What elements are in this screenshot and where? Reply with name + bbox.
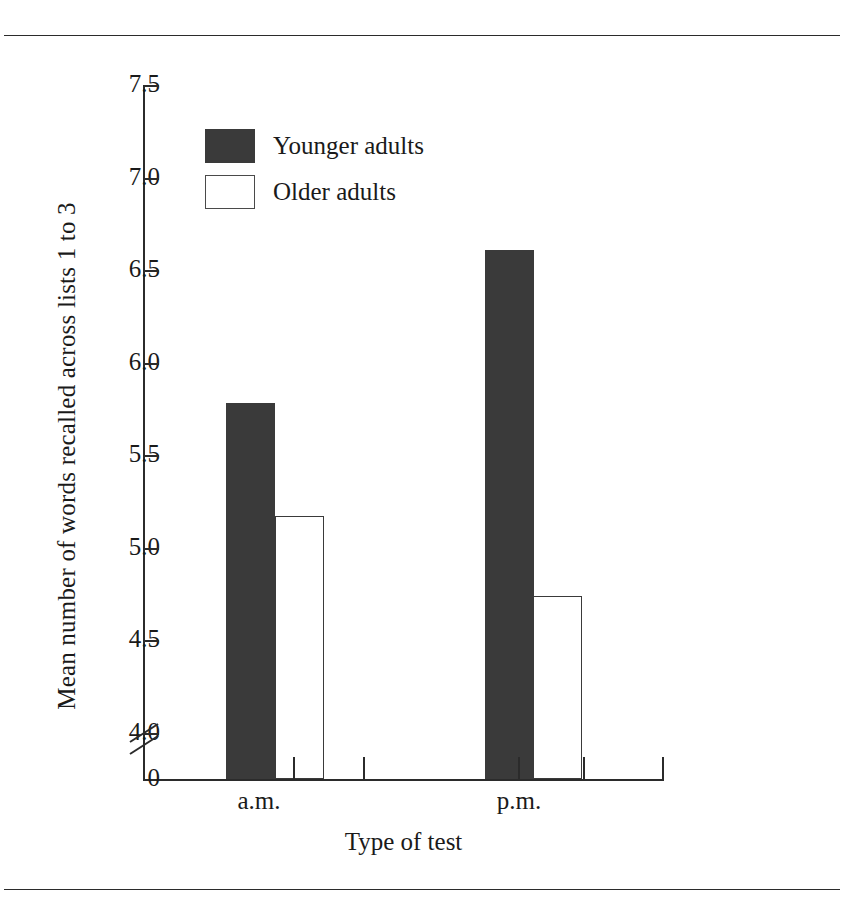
bottom-rule <box>4 889 840 890</box>
x-tick-label-pm: p.m. <box>449 787 589 815</box>
x-tick-mark <box>518 757 520 779</box>
top-rule <box>4 35 840 36</box>
legend-item-younger-adults: Younger adults <box>205 125 424 167</box>
y-axis-title: Mean number of words recalled across lis… <box>53 146 81 766</box>
legend-swatch-filled-square <box>205 129 255 163</box>
x-tick-label-am: a.m. <box>189 787 329 815</box>
x-axis-title: Type of test <box>143 828 664 856</box>
bar-pm-younger-adults <box>485 250 534 779</box>
bar-am-younger-adults <box>226 403 275 779</box>
legend-swatch-open-square <box>205 175 255 209</box>
x-tick-mark <box>583 757 585 779</box>
x-tick-mark <box>363 757 365 779</box>
legend-item-older-adults: Older adults <box>205 171 424 213</box>
legend: Younger adults Older adults <box>205 125 424 217</box>
legend-label-older-adults: Older adults <box>273 178 396 206</box>
legend-label-younger-adults: Younger adults <box>273 132 424 160</box>
bar-pm-older-adults <box>533 596 582 779</box>
bar-am-older-adults <box>275 516 324 779</box>
x-tick-mark <box>293 757 295 779</box>
figure-container: Mean number of words recalled across lis… <box>0 0 849 904</box>
x-axis-line <box>143 779 664 781</box>
